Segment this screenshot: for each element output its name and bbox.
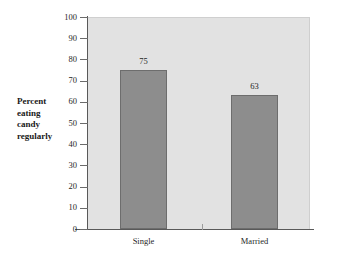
- chart-figure: Percent eating candy regularly 010203040…: [0, 0, 337, 266]
- y-axis-title-line-2: eating: [17, 108, 77, 120]
- y-axis-tick-label: 60: [37, 97, 77, 106]
- bar[interactable]: [231, 95, 278, 229]
- y-axis-tick: [80, 102, 88, 103]
- bar[interactable]: [120, 70, 167, 229]
- y-axis-tick-label: 80: [37, 55, 77, 64]
- bar-value-label: 75: [114, 57, 174, 66]
- y-axis-tick: [80, 208, 88, 209]
- y-axis-tick: [80, 81, 88, 82]
- y-axis-tick: [80, 17, 88, 18]
- y-axis-tick: [80, 187, 88, 188]
- y-axis-tick: [80, 144, 88, 145]
- y-axis-tick-label: 50: [37, 119, 77, 128]
- y-axis-tick-label: 90: [37, 34, 77, 43]
- y-axis-tick-label: 20: [37, 182, 77, 191]
- y-axis-tick-label: 100: [37, 13, 77, 22]
- y-axis-tick: [80, 229, 88, 230]
- y-axis-tick: [80, 59, 88, 60]
- x-axis-line: [75, 229, 314, 230]
- y-axis-tick: [80, 123, 88, 124]
- y-axis-tick-label: 10: [37, 203, 77, 212]
- y-axis-tick-label: 30: [37, 161, 77, 170]
- y-axis-tick: [80, 165, 88, 166]
- bar-value-label: 63: [225, 82, 285, 91]
- y-axis-tick-label: 70: [37, 76, 77, 85]
- x-axis-category-label: Married: [215, 237, 295, 246]
- x-axis-category-label: Single: [104, 237, 184, 246]
- y-axis-tick-label: 0: [37, 225, 77, 234]
- y-axis-tick: [80, 38, 88, 39]
- y-axis-tick-label: 40: [37, 140, 77, 149]
- x-axis-mid-tick: [202, 224, 203, 230]
